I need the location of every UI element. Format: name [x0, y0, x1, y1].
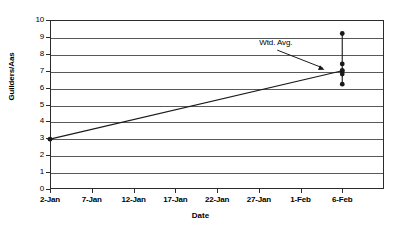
- gridline: [51, 89, 383, 90]
- y-axis-tick-label: 8: [4, 50, 44, 58]
- gridline: [51, 72, 383, 73]
- gridline: [51, 38, 383, 39]
- x-axis-tick: [301, 189, 302, 193]
- x-axis-tick: [175, 189, 176, 193]
- y-axis-tick-label: 0: [4, 185, 44, 193]
- x-axis-tick: [134, 189, 135, 193]
- wtd-avg-annotation: Wtd. Avg.: [259, 38, 292, 47]
- x-axis-tick: [342, 189, 343, 193]
- x-axis-tick-label: 6-Feb: [317, 195, 367, 204]
- y-axis-tick-label: 6: [4, 84, 44, 92]
- plot-area: [50, 20, 384, 189]
- chart-container: Guilders/Aas 109876543210 2-Jan7-Jan12-J…: [0, 0, 401, 229]
- y-axis-tick-label: 3: [4, 134, 44, 142]
- x-axis-title: Date: [0, 211, 401, 220]
- x-axis-tick: [217, 189, 218, 193]
- y-axis-tick-label: 7: [4, 67, 44, 75]
- gridline: [51, 139, 383, 140]
- y-axis-tick-label: 2: [4, 151, 44, 159]
- y-axis-tick-label: 1: [4, 168, 44, 176]
- x-axis-tick: [92, 189, 93, 193]
- y-axis-tick-label: 4: [4, 117, 44, 125]
- x-axis-tick: [259, 189, 260, 193]
- x-axis-tick: [50, 189, 51, 193]
- gridline: [51, 156, 383, 157]
- gridline: [51, 173, 383, 174]
- gridline: [51, 55, 383, 56]
- gridline: [51, 122, 383, 123]
- y-axis-tick-label: 5: [4, 101, 44, 109]
- gridline: [51, 106, 383, 107]
- y-axis-tick-label: 10: [4, 16, 44, 24]
- y-axis-tick-label: 9: [4, 33, 44, 41]
